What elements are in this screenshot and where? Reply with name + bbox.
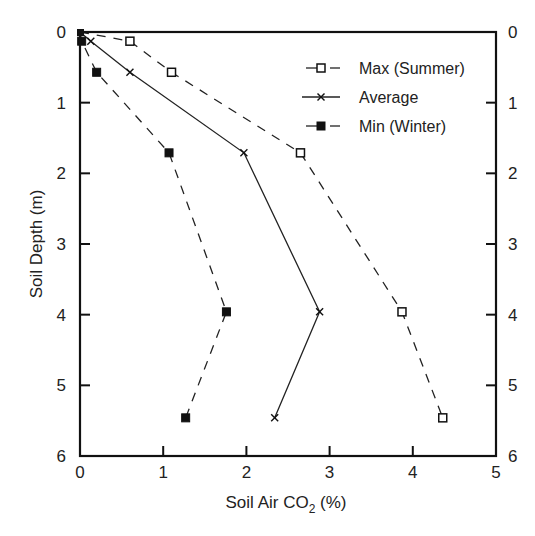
legend-label: Min (Winter) bbox=[359, 118, 446, 135]
x-tick-label: 2 bbox=[242, 463, 251, 482]
y-tick-label-right: 6 bbox=[508, 447, 517, 466]
filled-square-marker bbox=[165, 149, 173, 157]
x-tick-label: 4 bbox=[408, 463, 417, 482]
filled-square-marker bbox=[182, 414, 190, 422]
legend-item: Max (Summer) bbox=[306, 60, 465, 77]
legend-item: Average bbox=[302, 89, 418, 106]
y-tick-label-left: 6 bbox=[57, 447, 66, 466]
y-tick-label-right: 2 bbox=[508, 164, 517, 183]
open-square-marker bbox=[317, 64, 325, 72]
series-min-winter bbox=[78, 32, 231, 422]
y-tick-label-left: 1 bbox=[57, 94, 66, 113]
y-tick-label-left: 5 bbox=[57, 376, 66, 395]
legend-item: Min (Winter) bbox=[306, 118, 446, 135]
axes: 01234501234560123456 bbox=[57, 23, 518, 482]
y-tick-label-right: 3 bbox=[508, 235, 517, 254]
open-square-marker bbox=[126, 37, 134, 45]
x-tick-label: 0 bbox=[75, 463, 84, 482]
open-square-marker bbox=[296, 149, 304, 157]
y-tick-label-right: 0 bbox=[508, 23, 517, 42]
x-tick-label: 5 bbox=[491, 463, 500, 482]
y-tick-label-left: 3 bbox=[57, 235, 66, 254]
y-tick-label-left: 2 bbox=[57, 164, 66, 183]
open-square-marker bbox=[439, 414, 447, 422]
y-tick-label-right: 1 bbox=[508, 94, 517, 113]
x-marker bbox=[240, 149, 247, 156]
filled-square-marker bbox=[78, 37, 86, 45]
legend-label: Average bbox=[359, 89, 418, 106]
y-tick-label-left: 4 bbox=[57, 306, 66, 325]
filled-square-marker bbox=[93, 68, 101, 76]
legend-label: Max (Summer) bbox=[359, 60, 465, 77]
open-square-marker bbox=[398, 308, 406, 316]
x-marker bbox=[126, 69, 133, 76]
open-square-marker bbox=[168, 68, 176, 76]
x-marker bbox=[87, 38, 94, 45]
y-axis-title: Soil Depth (m) bbox=[27, 190, 46, 299]
y-tick-label-right: 4 bbox=[508, 306, 517, 325]
x-axis-title: Soil Air CO2 (%) bbox=[226, 493, 347, 516]
x-marker bbox=[316, 308, 323, 315]
filled-square-marker bbox=[317, 122, 325, 130]
filled-square-marker bbox=[222, 308, 230, 316]
x-tick-label: 3 bbox=[325, 463, 334, 482]
x-marker bbox=[271, 414, 278, 421]
plot-area bbox=[77, 29, 447, 422]
legend: Max (Summer)AverageMin (Winter) bbox=[302, 60, 465, 135]
x-tick-label: 1 bbox=[158, 463, 167, 482]
soil-co2-chart: 01234501234560123456 Max (Summer)Average… bbox=[0, 0, 535, 536]
series-line bbox=[80, 32, 226, 418]
y-tick-label-right: 5 bbox=[508, 376, 517, 395]
y-tick-label-left: 0 bbox=[57, 23, 66, 42]
